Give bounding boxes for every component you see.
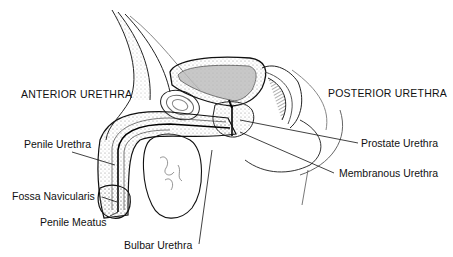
penile-urethra-label: Penile Urethra [24, 139, 91, 150]
bulbar-urethra-label: Bulbar Urethra [124, 240, 192, 251]
penile-meatus-label: Penile Meatus [40, 217, 107, 228]
urethra-anatomy-diagram: ANTERIOR URETHRA POSTERIOR URETHRA Penil… [0, 0, 453, 257]
membranous-urethra-label: Membranous Urethra [339, 168, 438, 179]
rectum [262, 66, 327, 130]
perineal-outline [245, 120, 321, 172]
bladder [170, 57, 266, 108]
fossa-navicularis-label: Fossa Navicularis [12, 191, 95, 202]
prostate-urethra-label: Prostate Urethra [361, 138, 438, 149]
posterior-urethra-heading: POSTERIOR URETHRA [328, 88, 447, 99]
glans [98, 185, 130, 218]
scrotum [143, 134, 201, 218]
penis [98, 112, 236, 219]
artist-signature [302, 170, 308, 205]
anterior-urethra-heading: ANTERIOR URETHRA [21, 89, 132, 100]
